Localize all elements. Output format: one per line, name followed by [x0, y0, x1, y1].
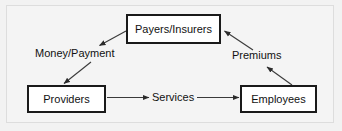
edge-label-services: Services [152, 92, 194, 103]
node-payers-insurers-label: Payers/Insurers [135, 24, 212, 35]
node-employees-label: Employees [251, 94, 305, 105]
node-payers-insurers[interactable]: Payers/Insurers [126, 14, 221, 44]
edge-label-money-payment: Money/Payment [35, 48, 114, 59]
diagram-canvas: Payers/Insurers Providers Employees Mone… [0, 0, 342, 131]
edge-label-premiums: Premiums [232, 50, 282, 61]
node-employees[interactable]: Employees [240, 85, 317, 113]
node-providers[interactable]: Providers [27, 85, 106, 113]
node-providers-label: Providers [43, 94, 89, 105]
